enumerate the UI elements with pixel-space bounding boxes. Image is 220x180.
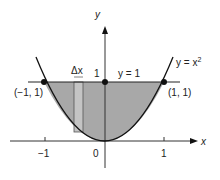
region-diagram: Δx 1 y x y = 1 y = x2 (−1, 1) (1, 1) −1 …	[0, 0, 220, 180]
point-1-1	[161, 79, 167, 85]
x-tick-0-label: 0	[93, 148, 99, 159]
point-1-1-label: (1, 1)	[168, 87, 191, 98]
x-axis-arrow-icon	[190, 138, 198, 144]
point-neg1-1	[41, 79, 47, 85]
y-axis-arrow-icon	[102, 26, 108, 34]
delta-x-label: Δx	[71, 65, 83, 76]
y-axis-label: y	[94, 9, 101, 20]
curve-label: y = x2	[176, 56, 201, 68]
shaded-region	[44, 82, 164, 141]
x-axis-label: x	[200, 136, 207, 147]
line-y-equals-1-label: y = 1	[118, 68, 140, 79]
x-tick-1-label: 1	[161, 148, 167, 159]
point-neg1-1-label: (−1, 1)	[14, 87, 43, 98]
x-tick-neg1-label: −1	[38, 148, 50, 159]
delta-x-strip	[74, 82, 83, 132]
point-0-1	[102, 79, 108, 85]
y-tick-1-label: 1	[94, 68, 100, 79]
